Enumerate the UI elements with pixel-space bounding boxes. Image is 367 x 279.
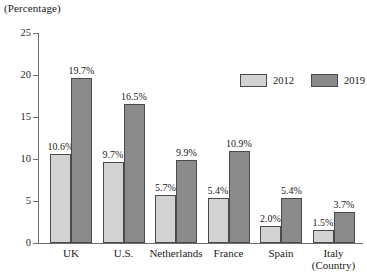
legend-label: 2012 xyxy=(273,75,294,86)
bar-2019[interactable] xyxy=(176,160,197,243)
bar-value-label: 2.0% xyxy=(260,214,281,224)
bar-value-label: 5.4% xyxy=(208,186,229,196)
bar-value-label: 5.7% xyxy=(155,183,176,193)
bar-pair: 1.5%3.7% xyxy=(313,33,355,243)
y-axis-tick xyxy=(33,243,38,244)
bar-value-label: 10.6% xyxy=(48,142,74,152)
chart-legend: 20122019 xyxy=(240,74,365,87)
bar-2012[interactable] xyxy=(103,162,124,243)
bar-2012[interactable] xyxy=(313,230,334,243)
bar-slot: 5.4% xyxy=(281,33,302,243)
bar-slot: 10.9% xyxy=(229,33,250,243)
bar-slot: 5.7% xyxy=(155,33,176,243)
y-axis-tick-label: 25 xyxy=(21,28,32,39)
x-axis-line xyxy=(38,243,363,244)
bar-group: 10.6%19.7%UK xyxy=(50,33,92,243)
bar-group: 2.0%5.4%Spain xyxy=(260,33,302,243)
y-axis-tick-label: 5 xyxy=(26,196,31,207)
bar-slot: 16.5% xyxy=(124,33,145,243)
bar-value-label: 9.9% xyxy=(176,148,197,158)
bar-2019[interactable] xyxy=(334,212,355,243)
y-axis-tick-label: 0 xyxy=(26,238,31,249)
x-axis-category-label: Spain xyxy=(268,247,293,259)
bar-pair: 5.7%9.9% xyxy=(155,33,197,243)
legend-item-2012[interactable]: 2012 xyxy=(240,74,294,87)
y-axis-tick-label: 20 xyxy=(21,70,32,81)
bar-slot: 19.7% xyxy=(71,33,92,243)
bar-value-label: 16.5% xyxy=(121,92,147,102)
bar-2012[interactable] xyxy=(50,154,71,243)
bar-2012[interactable] xyxy=(208,198,229,243)
x-axis-category-label: Italy xyxy=(323,247,343,259)
bar-value-label: 5.4% xyxy=(281,186,302,196)
bar-value-label: 10.9% xyxy=(226,139,252,149)
legend-swatch xyxy=(311,74,338,87)
bar-2019[interactable] xyxy=(71,78,92,243)
legend-swatch xyxy=(240,74,267,87)
y-axis-unit-caption: (Percentage) xyxy=(4,2,61,14)
bar-slot: 3.7% xyxy=(334,33,355,243)
bar-value-label: 9.7% xyxy=(103,150,124,160)
legend-item-2019[interactable]: 2019 xyxy=(311,74,365,87)
bar-2019[interactable] xyxy=(229,151,250,243)
bar-value-label: 1.5% xyxy=(313,218,334,228)
x-axis-category-label: France xyxy=(214,247,244,259)
bar-pair: 2.0%5.4% xyxy=(260,33,302,243)
y-axis-tick-label: 10 xyxy=(21,154,32,165)
bar-pair: 9.7%16.5% xyxy=(103,33,145,243)
bar-pair: 10.6%19.7% xyxy=(50,33,92,243)
bar-value-label: 19.7% xyxy=(69,66,95,76)
bar-slot: 1.5% xyxy=(313,33,334,243)
y-axis-tick-label: 15 xyxy=(21,112,32,123)
x-axis-category-label: Netherlands xyxy=(149,247,202,259)
bar-group: 5.4%10.9%France xyxy=(208,33,250,243)
x-axis-category-label: U.S. xyxy=(114,247,134,259)
legend-label: 2019 xyxy=(344,75,365,86)
bar-2012[interactable] xyxy=(260,226,281,243)
bar-2019[interactable] xyxy=(281,198,302,243)
x-axis-unit-caption: (Country) xyxy=(312,259,355,271)
bar-groups: 10.6%19.7%UK9.7%16.5%U.S.5.7%9.9%Netherl… xyxy=(38,33,363,243)
bar-chart: (Percentage) 0510152025 10.6%19.7%UK9.7%… xyxy=(0,0,367,279)
bar-value-label: 3.7% xyxy=(334,200,355,210)
bar-slot: 2.0% xyxy=(260,33,281,243)
bar-group: 9.7%16.5%U.S. xyxy=(103,33,145,243)
bar-slot: 9.9% xyxy=(176,33,197,243)
bar-slot: 9.7% xyxy=(103,33,124,243)
bar-2019[interactable] xyxy=(124,104,145,243)
x-axis-category-label: UK xyxy=(63,247,79,259)
bar-2012[interactable] xyxy=(155,195,176,243)
bar-group: 5.7%9.9%Netherlands xyxy=(155,33,197,243)
bar-pair: 5.4%10.9% xyxy=(208,33,250,243)
bar-group: 1.5%3.7%Italy(Country) xyxy=(313,33,355,243)
